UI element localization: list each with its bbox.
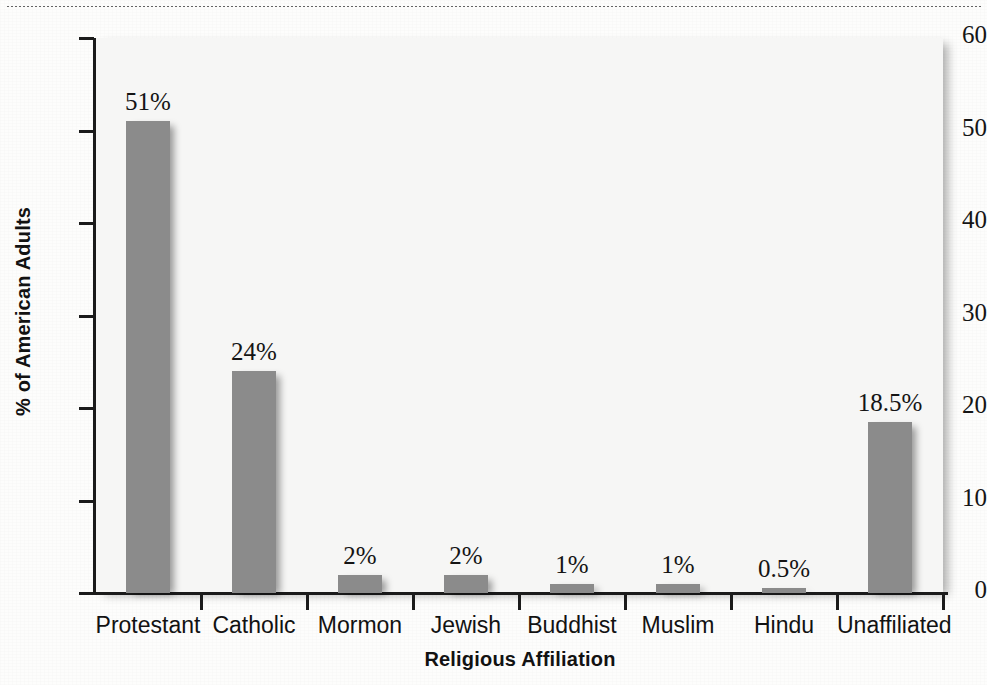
y-axis-tick	[79, 592, 94, 595]
x-axis-category-label: Muslim	[625, 612, 731, 639]
x-axis-category-label: Jewish	[413, 612, 519, 639]
y-axis-tick	[79, 222, 94, 225]
bar	[232, 371, 276, 593]
y-axis-tick	[79, 407, 94, 410]
y-axis-tick	[79, 315, 94, 318]
x-axis-tick	[730, 594, 733, 610]
bar	[762, 588, 806, 593]
bar-item: 2%	[413, 38, 519, 593]
x-axis-tick	[200, 594, 203, 610]
bar-value-label: 0.5%	[758, 555, 810, 583]
bar-item: 0.5%	[731, 38, 837, 593]
x-axis-tick	[942, 594, 945, 610]
y-axis-tick	[79, 37, 94, 40]
x-axis-category-label: Catholic	[201, 612, 307, 639]
bar-item: 2%	[307, 38, 413, 593]
bar-value-label: 2%	[449, 542, 482, 570]
x-axis-tick	[624, 594, 627, 610]
bar	[126, 121, 170, 593]
bar-item: 51%	[95, 38, 201, 593]
bar	[868, 422, 912, 593]
x-axis-category-label: Mormon	[307, 612, 413, 639]
x-axis-tick	[306, 594, 309, 610]
bar-value-label: 1%	[661, 551, 694, 579]
bar-item: 1%	[519, 38, 625, 593]
bar-value-label: 51%	[125, 88, 171, 116]
x-axis-title: Religious Affiliation	[95, 648, 945, 671]
bar	[550, 584, 594, 593]
y-axis-tick	[79, 500, 94, 503]
bar-value-label: 2%	[343, 542, 376, 570]
bar	[338, 575, 382, 594]
x-axis-tick	[836, 594, 839, 610]
bar-chart: 0102030405060 51%24%2%2%1%1%0.5%18.5% Pr…	[0, 0, 987, 685]
bar-value-label: 1%	[555, 551, 588, 579]
bar-value-label: 18.5%	[858, 389, 923, 417]
bar	[444, 575, 488, 594]
x-axis-category-label: Buddhist	[519, 612, 625, 639]
x-axis-category-label: Protestant	[95, 612, 201, 639]
x-axis-tick	[412, 594, 415, 610]
y-axis-title: % of American Adults	[12, 152, 35, 472]
bar-value-label: 24%	[231, 338, 277, 366]
x-axis-category-label: Hindu	[731, 612, 837, 639]
y-axis-tick	[79, 130, 94, 133]
chart-page: Managing Age Discrimination faint revers…	[0, 0, 987, 685]
bar-item: 24%	[201, 38, 307, 593]
x-axis-tick	[518, 594, 521, 610]
bar	[656, 584, 700, 593]
x-axis-category-label: Unaffiliated	[837, 612, 943, 639]
bar-item: 1%	[625, 38, 731, 593]
bar-item: 18.5%	[837, 38, 943, 593]
